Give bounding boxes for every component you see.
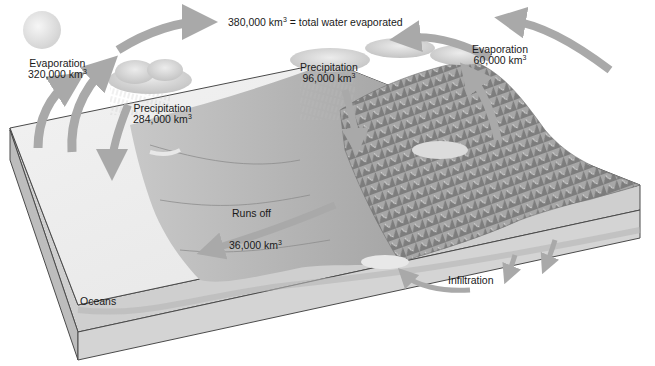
infiltration-label: Infiltration bbox=[448, 275, 494, 286]
runoff-amount-label: 36,000 km3 bbox=[229, 240, 282, 251]
land-precipitation-label: Precipitation 96,000 km3 bbox=[300, 62, 358, 84]
ocean-evaporation-label: Evaporation 320,000 km3 bbox=[28, 58, 87, 80]
land-evaporation-label: Evaporation 60,000 km3 bbox=[472, 44, 528, 66]
total-evaporated-label: 380,000 km3 = total water evaporated bbox=[228, 17, 403, 28]
water-cycle-diagram: 380,000 km3 = total water evaporated Eva… bbox=[0, 0, 655, 366]
sun-icon bbox=[23, 11, 61, 49]
coastal-lake bbox=[361, 255, 409, 269]
total-evaporation-arrow bbox=[118, 22, 200, 50]
ocean-precipitation-label: Precipitation 284,000 km3 bbox=[133, 103, 192, 125]
diagram-artwork bbox=[0, 0, 655, 366]
oceans-label: Oceans bbox=[80, 296, 116, 307]
runoff-label: Runs off bbox=[232, 208, 271, 219]
lake bbox=[412, 141, 468, 159]
